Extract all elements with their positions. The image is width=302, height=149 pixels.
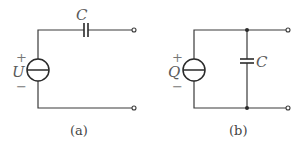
- circuit-a: C + U − (a): [12, 6, 136, 138]
- terminal-top-b: [286, 28, 290, 32]
- terminal-bottom-a: [132, 106, 136, 110]
- capacitor-label-a: C: [76, 6, 88, 24]
- terminal-top-a: [132, 28, 136, 32]
- wire-bottom-a: [38, 81, 132, 108]
- caption-b: (b): [229, 123, 247, 138]
- junction-top-b: [245, 28, 249, 32]
- minus-sign-a: −: [16, 79, 27, 94]
- caption-a: (a): [70, 123, 88, 138]
- circuit-b: C + Q − (b): [168, 28, 290, 138]
- wire-top-a: [38, 30, 132, 59]
- circuit-figure: C + U − (a) C + Q − (b): [0, 0, 302, 149]
- junction-bottom-b: [245, 106, 249, 110]
- wire-top-b: [194, 30, 286, 59]
- terminal-bottom-b: [286, 106, 290, 110]
- wire-bottom-b: [194, 81, 286, 108]
- capacitor-label-b: C: [256, 53, 268, 71]
- minus-sign-b: −: [172, 79, 183, 94]
